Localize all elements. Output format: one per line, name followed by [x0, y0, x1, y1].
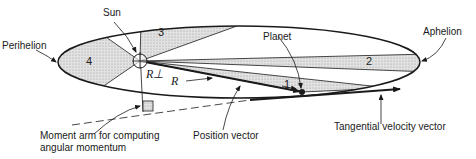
aphelion-leader	[422, 38, 446, 61]
position-vector-label: Position vector	[193, 130, 259, 142]
sun-label: Sun	[103, 7, 121, 19]
moment-arm-label-line1: Moment arm for computing	[40, 130, 160, 142]
velocity-line-extension	[72, 100, 250, 125]
planet	[299, 89, 305, 95]
aphelion-label: Aphelion	[423, 26, 462, 38]
sector-1-label: 1	[284, 78, 290, 90]
r-label: R	[171, 74, 178, 89]
sector-2-label: 2	[366, 55, 372, 67]
sector-4-label: 4	[86, 55, 92, 67]
moment-arm-label-line2: angular momentum	[40, 142, 126, 154]
r-leader	[186, 78, 212, 81]
sector-3-label: 3	[158, 26, 164, 38]
perihelion-label: Perihelion	[2, 40, 46, 52]
right-angle-marker	[143, 101, 153, 111]
tangential-velocity-label: Tangential velocity vector	[334, 121, 446, 133]
position-vector-leader	[223, 86, 240, 130]
r-perp-label: R⊥	[146, 67, 163, 82]
planet-label: Planet	[263, 31, 291, 43]
